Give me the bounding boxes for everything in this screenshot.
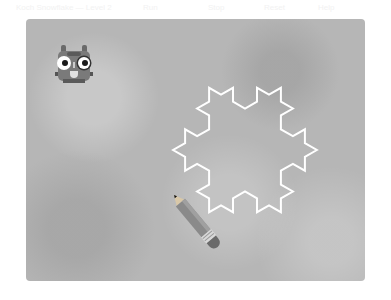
help-button[interactable]: Help: [318, 3, 334, 12]
game-stage[interactable]: [26, 19, 365, 281]
stop-button[interactable]: Stop: [208, 3, 224, 12]
reset-button[interactable]: Reset: [264, 3, 285, 12]
drawing-canvas: [26, 19, 365, 281]
koch-snowflake: [173, 88, 317, 212]
project-title: Koch Snowflake — Level 2: [16, 3, 112, 12]
robot-icon[interactable]: [55, 45, 93, 83]
pencil-icon[interactable]: [169, 191, 223, 251]
top-toolbar: Koch Snowflake — Level 2 Run Stop Reset …: [0, 0, 391, 16]
run-button[interactable]: Run: [143, 3, 158, 12]
